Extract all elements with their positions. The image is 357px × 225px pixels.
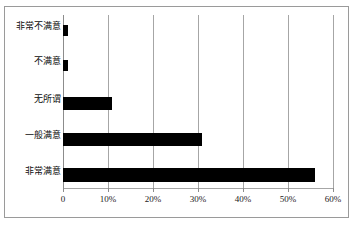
y-label-neutral: 无所谓 [5,94,61,104]
x-tick-label-10: 10% [88,194,128,205]
x-tick-label-60: 60% [313,194,353,205]
x-tick-mark-30 [198,188,199,192]
plot-area [63,15,333,188]
x-tick-mark-10 [108,188,109,192]
y-label-dissatisfied: 不满意 [5,56,61,66]
x-tick-mark-0 [63,188,64,192]
x-tick-mark-50 [288,188,289,192]
bar-neutral[interactable] [63,97,112,110]
bar-very-satisfied[interactable] [63,168,315,182]
y-label-very-dissatisfied: 非常不满意 [5,21,61,31]
x-tick-mark-60 [333,188,334,192]
x-tick-mark-20 [153,188,154,192]
x-tick-label-20: 20% [133,194,173,205]
y-label-very-satisfied: 非常满意 [5,166,61,176]
bar-chart-figure: 0 10% 20% 30% 40% 50% 60% 非常不满意 不满意 无所谓 … [0,0,357,225]
x-tick-mark-40 [243,188,244,192]
gridline-20 [153,15,154,188]
gridline-40 [243,15,244,188]
gridline-30 [198,15,199,188]
y-axis-category-labels: 非常不满意 不满意 无所谓 一般满意 非常满意 [3,0,61,225]
x-tick-label-30: 30% [178,194,218,205]
bar-very-dissatisfied[interactable] [63,25,68,36]
gridline-50 [288,15,289,188]
gridline-60 [333,15,334,188]
x-tick-label-40: 40% [223,194,263,205]
bar-somewhat-satisfied[interactable] [63,133,202,146]
x-tick-label-50: 50% [268,194,308,205]
y-label-somewhat-satisfied: 一般满意 [5,130,61,140]
bar-dissatisfied[interactable] [63,60,68,71]
